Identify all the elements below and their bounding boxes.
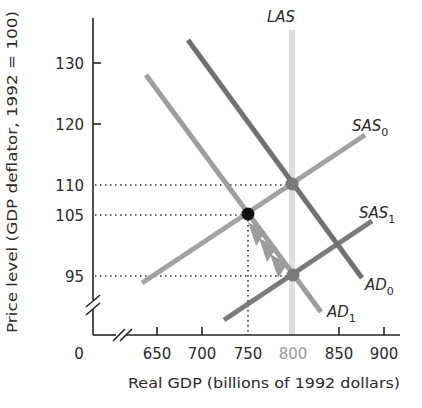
ad0-curve bbox=[188, 40, 362, 278]
short-run-equilibrium-point bbox=[242, 208, 255, 221]
y-axis-title: Price level (GDP deflator, 1992 = 100) bbox=[4, 11, 20, 333]
adjustment-arrows bbox=[248, 222, 288, 278]
y-tick-label-130: 130 bbox=[55, 55, 84, 73]
x-axis-title: Real GDP (billions of 1992 dollars) bbox=[128, 375, 400, 391]
equilibrium-point-110 bbox=[286, 178, 299, 191]
sas1-curve bbox=[224, 221, 372, 320]
x-tick-label-750: 750 bbox=[234, 345, 263, 363]
x-tick-label-700: 700 bbox=[188, 345, 217, 363]
ad0-label: AD0 bbox=[364, 276, 394, 298]
las-label: LAS bbox=[267, 8, 296, 26]
y-tick-label-120: 120 bbox=[55, 116, 84, 134]
x-tick-label-800: 800 bbox=[279, 345, 308, 363]
origin-label: 0 bbox=[74, 345, 84, 363]
reference-lines bbox=[95, 185, 292, 334]
ad1-label: AD1 bbox=[326, 303, 356, 325]
chart: 130 120 110 105 95 0 650 700 750 800 850… bbox=[0, 0, 422, 408]
y-tick-labels: 130 120 110 105 95 bbox=[55, 55, 84, 286]
y-tick-label-110: 110 bbox=[55, 177, 84, 195]
x-tick-label-650: 650 bbox=[143, 345, 172, 363]
sas0-curve bbox=[142, 135, 365, 283]
x-tick-label-900: 900 bbox=[370, 345, 399, 363]
y-tick-label-95: 95 bbox=[65, 268, 84, 286]
x-tick-labels: 0 650 700 750 800 850 900 bbox=[74, 345, 398, 363]
sas1-label: SAS1 bbox=[359, 204, 395, 226]
y-tick-label-105: 105 bbox=[55, 207, 84, 225]
axes bbox=[86, 18, 400, 341]
x-tick-label-850: 850 bbox=[325, 345, 354, 363]
sas0-label: SAS0 bbox=[352, 117, 388, 139]
equilibrium-point-95 bbox=[287, 269, 300, 282]
